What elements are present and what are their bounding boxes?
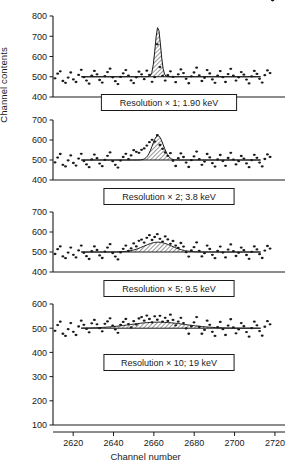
data-point [185, 327, 188, 329]
data-point [216, 250, 219, 252]
data-point [255, 324, 258, 326]
data-point [240, 155, 243, 157]
data-point [187, 82, 190, 84]
data-point [61, 80, 64, 82]
data-point [54, 253, 57, 255]
data-point [164, 317, 167, 319]
data-point [75, 334, 78, 336]
data-point [190, 249, 193, 251]
data-point [114, 80, 117, 82]
data-point [187, 333, 190, 335]
data-point [214, 335, 217, 337]
data-point [114, 255, 117, 257]
data-point [240, 246, 243, 248]
data-point [67, 251, 70, 253]
data-point [258, 253, 261, 255]
data-point [90, 158, 93, 160]
y-tick-label: 100 [32, 420, 47, 430]
data-point [198, 250, 201, 252]
data-point [166, 320, 169, 322]
data-point [211, 331, 214, 333]
data-point [156, 134, 159, 136]
data-point [166, 74, 169, 76]
data-point [266, 153, 269, 155]
data-point [172, 76, 175, 78]
figure-spectrum-resolution: Channel contents Channel number 40050060… [0, 0, 291, 470]
data-point [269, 156, 272, 158]
data-point [232, 158, 235, 160]
data-point [161, 148, 164, 150]
panel-label-text: Resolution × 5; 9.5 keV [122, 284, 215, 294]
data-point [266, 320, 269, 322]
data-point [103, 75, 106, 77]
data-point [132, 320, 135, 322]
data-point [219, 321, 222, 323]
data-point [227, 73, 230, 75]
data-point [177, 321, 180, 323]
data-point [169, 243, 172, 245]
data-point [190, 75, 193, 77]
data-point [127, 158, 130, 160]
data-point [179, 242, 182, 244]
data-point [67, 76, 70, 78]
data-point [266, 245, 269, 247]
y-axis-label: Channel contents [0, 10, 9, 160]
data-point [161, 75, 164, 77]
data-point [116, 332, 119, 334]
data-point [269, 72, 272, 74]
data-point [172, 240, 175, 242]
data-point [242, 157, 245, 159]
data-point [208, 72, 211, 74]
data-point [258, 330, 261, 332]
data-point [156, 43, 159, 45]
data-point [242, 74, 245, 76]
data-point [85, 163, 88, 165]
data-point [116, 83, 119, 85]
data-point [90, 250, 93, 252]
data-point [95, 73, 98, 75]
data-point [143, 78, 146, 80]
data-point [208, 324, 211, 326]
data-point [101, 257, 104, 259]
data-point [93, 245, 96, 247]
data-point [67, 328, 70, 330]
data-point [109, 317, 112, 319]
data-point [263, 158, 266, 160]
data-point [82, 252, 85, 254]
data-point [227, 157, 230, 159]
data-point [234, 163, 237, 165]
x-tick-label: 2680 [184, 438, 204, 448]
data-point [69, 71, 72, 73]
data-point [137, 71, 140, 73]
data-point [80, 320, 83, 322]
data-point [216, 158, 219, 160]
data-point [103, 323, 106, 325]
data-point [164, 151, 167, 153]
data-point [174, 81, 177, 83]
data-point [185, 251, 188, 253]
data-point [132, 242, 135, 244]
data-point [245, 162, 248, 164]
data-point [116, 166, 119, 168]
data-point [227, 324, 230, 326]
data-point [72, 331, 75, 333]
data-point [229, 152, 232, 154]
data-point [109, 243, 112, 245]
data-point [261, 165, 264, 167]
y-tick-label: 500 [32, 324, 47, 334]
data-point [179, 68, 182, 70]
data-point [67, 159, 70, 161]
data-point [200, 80, 203, 82]
data-point [106, 320, 109, 322]
data-point [211, 254, 214, 256]
data-point [137, 317, 140, 319]
data-point [148, 74, 151, 76]
data-point [111, 160, 114, 162]
data-point [122, 321, 125, 323]
data-point [88, 331, 91, 333]
data-point [54, 330, 57, 332]
data-point [253, 70, 256, 72]
data-point [208, 248, 211, 250]
data-point [95, 323, 98, 325]
data-point [59, 321, 62, 323]
